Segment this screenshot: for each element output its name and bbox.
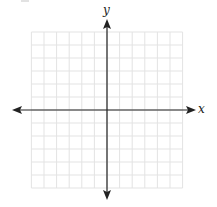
- coordinate-plane: y x: [0, 0, 217, 207]
- x-axis-label: x: [198, 103, 205, 115]
- coordinate-grid-svg: [0, 0, 217, 207]
- cropped-label-fragment: [21, 0, 29, 2]
- x-axis: [12, 106, 196, 114]
- y-axis-label: y: [103, 4, 110, 16]
